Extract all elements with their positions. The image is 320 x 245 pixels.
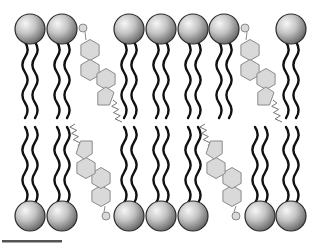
fatty-acid-tail — [226, 42, 231, 118]
fatty-acid-tail — [32, 42, 37, 118]
fatty-acid-tail — [121, 42, 126, 118]
fatty-acid-tail — [163, 127, 168, 203]
steroid-ring — [257, 69, 275, 90]
steroid-ring — [81, 60, 99, 81]
cholesterol-tail — [112, 100, 122, 122]
phospholipid — [276, 127, 306, 231]
fatty-acid-tail — [54, 42, 59, 118]
steroid-pentagon-ring — [98, 87, 114, 105]
fatty-acid-tail — [283, 127, 288, 203]
scale-bar — [2, 240, 62, 243]
fatty-acid-tail — [32, 127, 37, 203]
fatty-acid-tail — [185, 42, 190, 118]
phospholipid — [209, 14, 239, 118]
hydroxyl-group — [102, 212, 110, 220]
phosphate-head — [245, 201, 275, 231]
fatty-acid-tail — [252, 127, 257, 203]
steroid-ring — [77, 158, 95, 179]
fatty-acid-tail — [64, 127, 69, 203]
cholesterol — [200, 124, 241, 220]
phosphate-head — [178, 14, 208, 44]
phospholipid — [47, 14, 77, 118]
phosphate-head — [47, 201, 77, 231]
fatty-acid-tail — [195, 42, 200, 118]
fatty-acid-tail — [121, 127, 126, 203]
cholesterol — [79, 24, 122, 122]
top-leaflet — [15, 14, 306, 122]
cholesterol — [241, 24, 282, 122]
phospholipid — [146, 14, 176, 118]
phosphate-head — [178, 201, 208, 231]
steroid-pentagon-ring — [258, 87, 274, 105]
fatty-acid-tail — [54, 127, 59, 203]
phosphate-head — [15, 201, 45, 231]
phospholipid — [114, 127, 144, 231]
steroid-ring — [81, 40, 99, 61]
phosphate-head — [146, 201, 176, 231]
steroid-pentagon-ring — [76, 141, 92, 159]
hydroxyl-group — [241, 24, 249, 32]
phospholipid — [245, 127, 275, 231]
steroid-ring — [207, 158, 225, 179]
phosphate-head — [276, 14, 306, 44]
fatty-acid-tail — [293, 42, 298, 118]
fatty-acid-tail — [131, 127, 136, 203]
phosphate-head — [47, 14, 77, 44]
phospholipid — [15, 14, 45, 118]
phospholipid — [178, 14, 208, 118]
fatty-acid-tail — [163, 42, 168, 118]
phosphate-head — [114, 201, 144, 231]
steroid-ring — [241, 60, 259, 81]
bottom-leaflet — [15, 124, 306, 231]
fatty-acid-tail — [283, 42, 288, 118]
fatty-acid-tail — [153, 127, 158, 203]
fatty-acid-tail — [195, 127, 200, 203]
cholesterol-tail — [70, 124, 80, 146]
fatty-acid-tail — [216, 42, 221, 118]
fatty-acid-tail — [185, 127, 190, 203]
fatty-acid-tail — [262, 127, 267, 203]
steroid-ring — [97, 69, 115, 90]
fatty-acid-tail — [293, 127, 298, 203]
phosphate-head — [276, 201, 306, 231]
fatty-acid-tail — [64, 42, 69, 118]
phosphate-head — [209, 14, 239, 44]
cholesterol — [70, 124, 110, 220]
phospholipid — [47, 127, 77, 231]
hydroxyl-group — [79, 24, 87, 32]
phospholipid — [276, 14, 306, 118]
cholesterol-tail — [272, 100, 282, 122]
fatty-acid-tail — [131, 42, 136, 118]
phosphate-head — [114, 14, 144, 44]
phosphate-head — [146, 14, 176, 44]
lipid-bilayer-diagram — [0, 0, 320, 245]
phospholipid — [114, 14, 144, 118]
steroid-ring — [241, 40, 259, 61]
phospholipid — [146, 127, 176, 231]
phospholipid — [15, 127, 45, 231]
fatty-acid-tail — [153, 42, 158, 118]
steroid-ring — [223, 168, 241, 189]
phosphate-head — [15, 14, 45, 44]
fatty-acid-tail — [22, 42, 27, 118]
fatty-acid-tail — [22, 127, 27, 203]
hydroxyl-group — [232, 212, 240, 220]
steroid-pentagon-ring — [206, 141, 222, 159]
phospholipid — [178, 127, 208, 231]
